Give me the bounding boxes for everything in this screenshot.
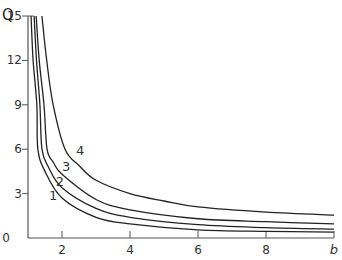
- x-axis-title: b: [330, 242, 338, 257]
- y-tick-label: 0: [2, 231, 10, 245]
- curve-label-2: 2: [56, 174, 64, 189]
- curve-2: [34, 16, 334, 229]
- y-tick-label: 9: [14, 98, 22, 112]
- x-tick-label: 2: [58, 243, 66, 257]
- curve-label-3: 3: [62, 159, 70, 174]
- x-tick-label: 8: [262, 243, 270, 257]
- curve-label-4: 4: [76, 143, 84, 158]
- curve-3: [36, 16, 334, 224]
- curves: [31, 16, 334, 232]
- chart: 2468b03691215Q 1234: [0, 0, 342, 260]
- y-tick-label: 3: [14, 187, 22, 201]
- axes: 2468b03691215Q: [2, 6, 338, 257]
- x-tick-label: 4: [126, 243, 134, 257]
- curve-1: [31, 16, 334, 232]
- x-tick-label: 6: [194, 243, 202, 257]
- y-axis-title: Q: [2, 6, 14, 24]
- y-tick-label: 6: [14, 142, 22, 156]
- y-tick-label: 12: [7, 53, 22, 67]
- curve-4: [42, 16, 334, 215]
- curve-label-1: 1: [49, 188, 57, 203]
